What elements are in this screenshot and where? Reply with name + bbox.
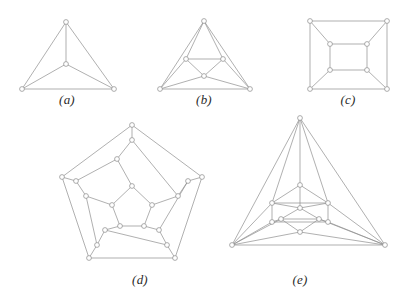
graph-edge [159,181,188,230]
figure-c-cube-graph [308,19,390,92]
graph-edge [132,140,178,196]
graph-vertex [326,201,331,206]
figure-b-octahedron-graph [158,19,253,92]
graph-vertex [308,87,313,92]
figure-board: (a)(b)(c)(d)(e) [0,0,417,291]
graph-vertex [298,206,303,211]
graph-edge [66,22,114,89]
graph-edge [232,118,300,245]
graph-vertex [74,179,79,184]
graph-edge [367,21,387,44]
graph-edge [160,76,204,89]
figure-d-edges [62,125,202,258]
graph-edge [62,125,132,177]
graph-edge [281,219,300,232]
graph-edge [22,22,66,89]
graph-vertex [112,87,117,92]
figure-d-vertices [60,123,205,261]
graph-edge [272,118,300,203]
graph-vertex [64,62,69,67]
graph-vertex [326,220,331,225]
graph-edge [204,59,223,76]
graph-edge [300,185,328,203]
graph-vertex [103,228,108,233]
figure-e-vertices [230,116,388,248]
figure-b-vertices [158,19,253,92]
graph-vertex [118,224,123,229]
figure-c-vertices [308,19,390,92]
graph-vertex [298,116,303,121]
graph-vertex [158,87,163,92]
graph-edge [272,185,300,203]
graph-vertex [142,224,147,229]
figure-d-dodecahedron-graph [60,123,205,261]
figure-a-tetrahedron-graph [20,20,117,92]
graph-vertex [202,74,207,79]
graph-vertex [385,19,390,24]
figure-e-edges [232,118,385,245]
graph-vertex [221,57,226,62]
graph-vertex [298,230,303,235]
graph-edge [272,203,300,208]
graph-vertex [365,42,370,47]
graph-vertex [150,203,155,208]
graph-canvas [0,0,417,291]
graph-vertex [130,184,135,189]
figure-a-edges [22,22,114,89]
graph-vertex [110,203,115,208]
graph-vertex [383,243,388,248]
graph-vertex [130,123,135,128]
graph-vertex [270,201,275,206]
graph-edge [300,118,385,245]
graph-edge [300,203,328,208]
graph-edge [281,208,300,219]
figure-b-edges [160,21,250,89]
figure-label-a: (a) [59,92,75,108]
graph-vertex [248,87,253,92]
graph-vertex [317,217,322,222]
graph-vertex [115,157,120,162]
graph-vertex [308,19,313,24]
graph-edge [204,21,223,59]
graph-vertex [328,68,333,73]
graph-edge [300,232,385,245]
graph-edge [223,59,250,89]
graph-edge [112,205,120,226]
graph-vertex [385,87,390,92]
graph-vertex [60,175,65,180]
graph-edge [204,76,250,89]
figure-label-e: (e) [292,272,307,288]
graph-edge [152,196,178,205]
graph-vertex [365,68,370,73]
figure-e-icosahedron-graph [230,116,388,248]
graph-edge [117,140,132,159]
graph-vertex [298,183,303,188]
figure-c-edges [310,21,387,89]
graph-vertex [87,256,92,261]
graph-vertex [64,20,69,25]
graph-vertex [270,220,275,225]
graph-vertex [157,228,162,233]
graph-edge [117,159,132,186]
graph-vertex [184,57,189,62]
graph-edge [175,177,202,258]
graph-edge [86,196,112,205]
graph-vertex [84,194,89,199]
graph-edge [86,196,97,245]
graph-edge [186,21,204,59]
graph-vertex [165,243,170,248]
graph-edge [66,64,114,89]
graph-edge [22,64,66,89]
figure-label-d: (d) [132,272,148,288]
graph-edge [132,125,202,177]
graph-vertex [202,19,207,24]
graph-vertex [130,138,135,143]
graph-edge [186,59,204,76]
figure-a-vertices [20,20,117,92]
graph-edge [112,186,132,205]
graph-vertex [95,243,100,248]
graph-edge [300,118,328,203]
graph-edge [62,177,89,258]
graph-vertex [176,194,181,199]
graph-edge [300,219,319,232]
